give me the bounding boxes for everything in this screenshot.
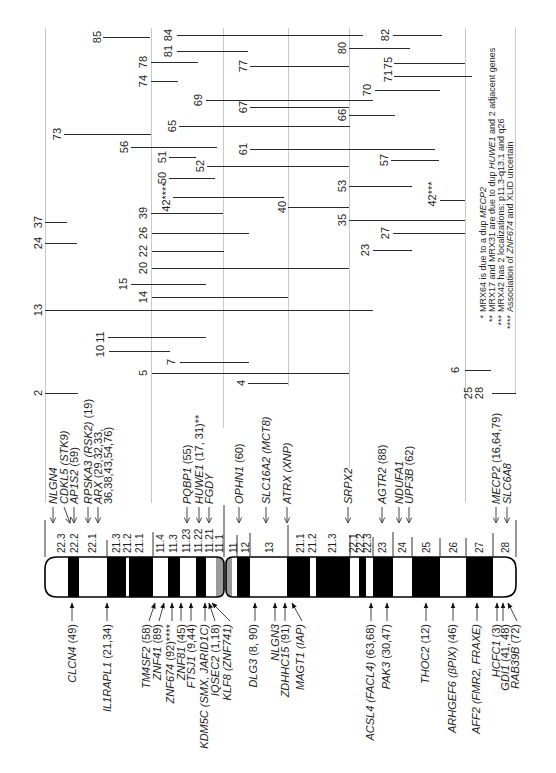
band-gneg xyxy=(250,557,287,597)
gene-label: RAB39B (72) xyxy=(510,624,521,689)
gene-label: PAK3 (30,47) xyxy=(381,624,392,689)
band-gneg xyxy=(493,557,516,597)
footnote-gene: ZNF674 xyxy=(505,221,515,254)
band-label: 21.3 xyxy=(328,534,338,553)
band-label: 22.1 xyxy=(88,534,98,553)
footnote-text: MRX64 is due to a dup xyxy=(478,218,488,312)
gene-annotation: (63,68) xyxy=(364,624,376,662)
band-gpos xyxy=(237,557,250,597)
gene-label: AFF2 (FMR2, FRAXE) xyxy=(471,624,482,734)
gene-symbol: AGTR2 xyxy=(376,467,388,504)
mrx-interval-line xyxy=(45,222,67,223)
mrx-label: 24 xyxy=(33,237,44,249)
footnote-line: ****Association of ZNF674 and XLID uncer… xyxy=(506,141,515,329)
mrx-label: 56 xyxy=(119,141,130,153)
gene-label: ATRX (XNP) xyxy=(282,442,293,504)
mrx-label: 4 xyxy=(236,380,247,386)
gene-label: CLCN4 (49) xyxy=(67,624,78,683)
mrx-interval-line xyxy=(151,62,198,63)
mrx-interval-line xyxy=(179,126,350,127)
footnote-text: Association of xyxy=(505,253,515,312)
footnote-text: MRX42 has 2 localizations: p11.3-q13.1 a… xyxy=(496,119,506,312)
gene-symbol: IQSEC2 xyxy=(209,656,221,696)
band-label: 24 xyxy=(398,542,408,553)
footnote-text: and 2 adjacent genes xyxy=(487,48,497,137)
band-label: 21.1 xyxy=(135,534,145,553)
mrx-interval-line xyxy=(45,243,77,244)
mrx-interval-line xyxy=(169,157,196,158)
gene-label: SRPX2 xyxy=(343,468,354,504)
band-gpos xyxy=(466,557,493,597)
mrx-label: 11 xyxy=(95,331,106,342)
band-gneg xyxy=(310,557,316,597)
gene-annotation: (19) xyxy=(82,399,94,422)
band-gpos xyxy=(168,557,180,597)
gene-symbol: CLCN4 xyxy=(66,647,78,683)
gene-symbol: NLGN4 xyxy=(47,467,59,504)
arrow-up-icon xyxy=(149,603,155,621)
mrx-label: 39 xyxy=(138,207,149,219)
gene-label: ZDHHC15 (91) xyxy=(280,624,291,697)
gene-symbol: FGDY xyxy=(203,473,215,504)
gene-symbol: ATRX (XNP) xyxy=(281,442,293,504)
gene-symbol: OPHN1 xyxy=(233,466,245,504)
gene-annotation: (9,44) xyxy=(185,624,197,656)
mrx-label: 25 xyxy=(463,387,474,399)
mrx-interval-line xyxy=(349,48,410,49)
mrx-label: 73 xyxy=(52,128,63,140)
gene-label: IL1RAPL1 (21,34) xyxy=(102,624,113,712)
mrx-interval-line xyxy=(492,393,516,394)
mrx-label: 71 xyxy=(383,70,394,82)
band-label: 21.3 xyxy=(112,534,122,553)
footnote-text: MRX17 and MRX31 are due to dup xyxy=(487,169,497,312)
mrx-interval-line xyxy=(250,66,349,67)
arrow-up-icon xyxy=(159,603,164,621)
gene-label: NLGN4 xyxy=(48,467,59,504)
mrx-label: 14 xyxy=(138,291,149,303)
mrx-interval-line xyxy=(180,362,249,363)
gene-symbol: SLC16A2 (MCT8) xyxy=(260,417,272,504)
gene-annotation: (8, 90) xyxy=(247,624,259,659)
mrx-label: 2 xyxy=(33,390,44,396)
gene-label: MAGT1 (IAP) xyxy=(295,624,306,690)
mrx-label: 35 xyxy=(337,214,348,226)
mrx-label: 13 xyxy=(33,304,44,316)
mrx-label: 42**** xyxy=(161,182,172,211)
gene-label: PQBP1 (55) xyxy=(182,445,193,504)
gene-label: ACSL4 (FACL4) (63,68) xyxy=(365,624,376,741)
band-gneg xyxy=(206,557,216,597)
arrow-down-icon xyxy=(64,507,70,523)
gene-symbol: UPF3B xyxy=(403,469,415,504)
mrx-label: 61 xyxy=(238,143,249,155)
mrx-interval-line xyxy=(108,337,206,338)
gene-annotation: (17, 31)** xyxy=(193,415,205,465)
mrx-interval-line xyxy=(391,160,439,161)
footnote-marker: **** xyxy=(506,315,515,329)
band-gpos xyxy=(373,557,393,597)
mrx-label: 15 xyxy=(118,278,129,290)
band-gneg xyxy=(440,557,466,597)
gene-label: KDM5C (SMX, JARID1C) xyxy=(199,624,210,749)
gene-label: SLC6A8 xyxy=(502,463,513,504)
band-label: 27 xyxy=(475,542,485,553)
gene-label: KLF8 (ZNF741) xyxy=(222,624,233,700)
band-gneg xyxy=(126,557,129,597)
gene-annotation: (59) xyxy=(68,447,80,470)
mrx-interval-line xyxy=(349,186,412,187)
band-label: 13 xyxy=(265,542,275,553)
gene-symbol: ACSL4 (FACL4) xyxy=(364,662,376,741)
band-gpos xyxy=(68,557,79,597)
gene-annotation: (16,64,79) xyxy=(490,413,502,466)
band-gneg xyxy=(350,557,359,597)
gene-symbol: AFF2 (FMR2, FRAXE) xyxy=(470,624,482,734)
band-gpos xyxy=(316,557,350,597)
q-arm-bands xyxy=(225,557,516,597)
gene-annotation: (89) xyxy=(151,624,163,647)
mrx-label: 6 xyxy=(450,367,461,373)
gene-symbol: KLF8 (ZNF741) xyxy=(221,624,233,700)
mrx-label: 20 xyxy=(138,262,149,274)
gene-annotation: (92)**** xyxy=(164,624,176,664)
mrx-label: 5 xyxy=(138,370,149,376)
band-label: 11.4 xyxy=(156,534,166,553)
mrx-label: 77 xyxy=(238,60,249,72)
